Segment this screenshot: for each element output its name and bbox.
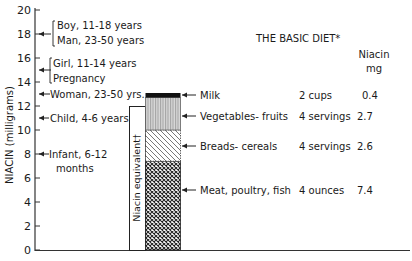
y-tick-label: 0 [24, 244, 31, 257]
arrow-icon [182, 93, 187, 98]
arrow-icon [39, 152, 44, 157]
table-row: Vegetables- fruits 4 servings 2.7 [200, 111, 373, 122]
food-amount: 2 cups [299, 90, 332, 101]
y-tick-label: 12 [17, 100, 31, 113]
y-axis: 0 2 4 6 8 10 12 14 16 18 20 NIACIN (mill… [4, 4, 40, 257]
column-header-mg: mg [366, 63, 382, 74]
niacin-equivalent-bar: Niacin equivalent† [130, 107, 146, 251]
food-amount: 4 servings [299, 111, 351, 122]
annotation-15: Girl, 11-14 years Pregnancy [39, 58, 137, 84]
y-ticks [35, 10, 40, 250]
segment-milk [146, 93, 181, 98]
segment-breads [146, 130, 181, 161]
table-row: Breads- cereals 4 servings 2.6 [200, 141, 373, 152]
y-axis-label: NIACIN (milligrams) [4, 86, 15, 184]
niacin-chart: 0 2 4 6 8 10 12 14 16 18 20 NIACIN (mill… [0, 0, 412, 261]
annotation-text: Boy, 11-18 years [57, 20, 142, 31]
food-group: Breads- cereals [200, 141, 277, 152]
segment-pointers [182, 95, 196, 190]
y-tick-label: 4 [24, 196, 31, 209]
food-niacin: 2.6 [357, 141, 373, 152]
y-tick-label: 16 [17, 52, 31, 65]
segment-meat [146, 161, 181, 250]
food-group: Meat, poultry, fish [200, 185, 291, 196]
bracket-icon [53, 21, 55, 46]
food-amount: 4 servings [299, 141, 351, 152]
arrow-icon [39, 116, 44, 121]
arrow-icon [182, 188, 187, 193]
table-row: Meat, poultry, fish 4 ounces 7.4 [200, 185, 373, 196]
annotation-text: Woman, 23-50 yrs. [50, 89, 145, 100]
food-niacin: 0.4 [362, 90, 378, 101]
y-tick-label: 18 [17, 28, 31, 41]
food-niacin: 7.4 [357, 185, 373, 196]
segment-vegetables [146, 98, 181, 130]
diet-table: Milk 2 cups 0.4 Vegetables- fruits 4 ser… [200, 90, 378, 196]
food-amount: 4 ounces [299, 185, 344, 196]
annotation-11: Child, 4-6 years [39, 113, 129, 124]
y-tick-label: 2 [24, 220, 31, 233]
niacin-equivalent-label: Niacin equivalent† [131, 134, 142, 222]
y-tick-label: 14 [17, 76, 31, 89]
annotation-8: Infant, 6-12 months [39, 149, 107, 174]
food-group: Vegetables- fruits [200, 111, 288, 122]
food-niacin: 2.7 [357, 111, 373, 122]
y-tick-label: 10 [17, 124, 31, 137]
table-row: Milk 2 cups 0.4 [200, 90, 378, 101]
annotation-text: Pregnancy [53, 73, 106, 84]
arrow-icon [182, 114, 187, 119]
arrow-icon [39, 32, 44, 37]
annotation-13: Woman, 23-50 yrs. [39, 89, 145, 100]
annotation-text: Girl, 11-14 years [53, 58, 137, 69]
basic-diet-stacked-bar [146, 93, 181, 250]
annotation-text: Infant, 6-12 [49, 149, 107, 160]
chart-title: THE BASIC DIET* [255, 33, 340, 44]
arrow-icon [182, 144, 187, 149]
arrow-icon [39, 92, 44, 97]
annotation-text: months [56, 163, 94, 174]
annotation-18: Boy, 11-18 years Man, 23-50 years [39, 20, 144, 46]
annotation-text: Child, 4-6 years [50, 113, 129, 124]
arrow-icon [39, 68, 44, 73]
food-group: Milk [200, 90, 220, 101]
y-tick-label: 20 [17, 4, 31, 17]
annotation-text: Man, 23-50 years [57, 35, 144, 46]
requirement-annotations: Boy, 11-18 years Man, 23-50 years Girl, … [39, 20, 145, 174]
y-tick-label: 8 [24, 148, 31, 161]
column-header-niacin: Niacin [358, 49, 389, 60]
y-tick-label: 6 [24, 172, 31, 185]
